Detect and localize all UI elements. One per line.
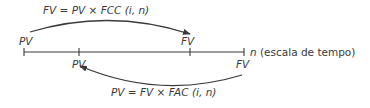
- timeline-label: n (escala de tempo): [250, 46, 355, 58]
- discount-arrow: [80, 66, 242, 86]
- label-fv-top: FV: [181, 35, 194, 47]
- bottom-formula: PV = FV × FAC (i, n): [111, 86, 216, 98]
- label-pv-bottom: PV: [72, 58, 86, 70]
- timeline-label-text: (escala de tempo): [257, 46, 356, 58]
- timeline-label-var: n: [250, 46, 257, 58]
- label-fv-bottom: FV: [236, 58, 249, 70]
- label-pv-top: PV: [19, 35, 33, 47]
- compound-arrow: [30, 20, 190, 34]
- top-formula: FV = PV × FCC (i, n): [43, 4, 149, 16]
